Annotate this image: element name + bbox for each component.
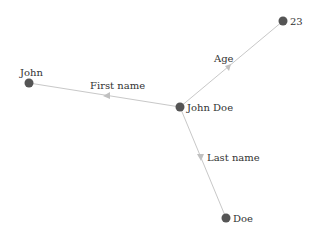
graph-canvas: First name Age Last name John Doe John 2… xyxy=(0,0,319,233)
arrow-icon-age xyxy=(225,64,231,71)
edge-label-age: Age xyxy=(213,53,234,64)
edge-label-last-name: Last name xyxy=(207,152,260,163)
node-label-john: John xyxy=(19,67,43,78)
node-label-doe: Doe xyxy=(233,213,253,224)
node-john[interactable] xyxy=(25,79,34,88)
edge-label-first-name: First name xyxy=(90,80,145,91)
node-age-value[interactable] xyxy=(279,17,288,26)
node-john-doe[interactable] xyxy=(176,103,185,112)
edge-age[interactable] xyxy=(180,21,283,107)
node-label-age-value: 23 xyxy=(290,16,303,27)
node-doe[interactable] xyxy=(222,214,231,223)
arrow-icon-last-name xyxy=(197,154,204,161)
node-label-john-doe: John Doe xyxy=(186,102,233,113)
arrow-icon-first-name xyxy=(103,92,110,99)
